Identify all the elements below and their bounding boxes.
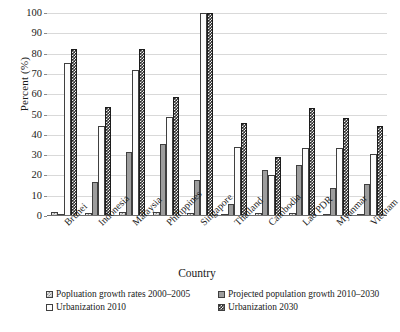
bar-group — [285, 13, 319, 216]
bar — [71, 49, 78, 216]
bar — [241, 123, 248, 216]
bar-group — [47, 13, 81, 216]
legend-swatch-icon — [46, 291, 53, 298]
legend-swatch-icon — [218, 291, 225, 298]
y-tick-label: 30 — [32, 150, 43, 161]
x-tick-cell: Thailand — [217, 216, 251, 268]
bar-group — [149, 13, 183, 216]
bar — [105, 107, 112, 216]
bar-group — [81, 13, 115, 216]
y-tick-label: 20 — [32, 170, 43, 181]
y-tick-label: 0 — [37, 211, 42, 222]
x-tick-cell: Vietnam — [353, 216, 387, 268]
x-tick-cell: Indonesia — [81, 216, 115, 268]
x-tick-cell: Brunei — [47, 216, 81, 268]
bar-group — [183, 13, 217, 216]
y-tick-label: 80 — [32, 48, 43, 59]
y-tick-label: 50 — [32, 109, 43, 120]
legend-label: Projected population growth 2010–2030 — [228, 288, 379, 301]
y-tick-label: 70 — [32, 69, 43, 80]
x-tick-cell: Cambodia — [251, 216, 285, 268]
legend-row: Urbanization 2010Urbanization 2030 — [46, 301, 386, 314]
x-tick-cell: Malaysia — [115, 216, 149, 268]
legend-item[interactable]: Urbanization 2010 — [46, 301, 218, 314]
chart-legend: Popluation growth rates 2000–2005Project… — [46, 288, 386, 314]
bar — [207, 13, 214, 216]
legend-label: Urbanization 2030 — [228, 301, 298, 314]
bar-group — [251, 13, 285, 216]
legend-swatch-icon — [218, 304, 225, 311]
legend-row: Popluation growth rates 2000–2005Project… — [46, 288, 386, 301]
x-axis-title: Country — [0, 267, 394, 279]
bar — [309, 108, 316, 216]
y-tick-label: 60 — [32, 89, 43, 100]
x-tick-cell: Singapore — [183, 216, 217, 268]
bar-group — [115, 13, 149, 216]
bar — [343, 118, 350, 216]
legend-item[interactable]: Projected population growth 2010–2030 — [218, 288, 379, 301]
bar-group — [353, 13, 387, 216]
x-tick-cell: Philippines — [149, 216, 183, 268]
bar-groups — [47, 13, 387, 216]
bar — [139, 49, 146, 216]
y-axis-title: Percent (%) — [18, 14, 30, 154]
plot-area: 0102030405060708090100 — [47, 13, 387, 216]
legend-item[interactable]: Popluation growth rates 2000–2005 — [46, 288, 218, 301]
x-axis-ticks: BruneiIndonesiaMalaysiaPhilippinesSingap… — [47, 216, 387, 268]
legend-label: Urbanization 2010 — [56, 301, 126, 314]
bar — [173, 97, 180, 216]
y-tick-label: 10 — [32, 190, 43, 201]
bar-group — [319, 13, 353, 216]
legend-label: Popluation growth rates 2000–2005 — [56, 288, 190, 301]
x-tick-cell: Lao PDR — [285, 216, 319, 268]
bar-group — [217, 13, 251, 216]
x-tick-cell: Myanmar — [319, 216, 353, 268]
y-tick-label: 100 — [26, 8, 42, 19]
legend-swatch-icon — [46, 304, 53, 311]
bar — [377, 126, 384, 216]
y-tick-label: 90 — [32, 28, 43, 39]
y-tick-label: 40 — [32, 130, 43, 141]
legend-item[interactable]: Urbanization 2030 — [218, 301, 298, 314]
